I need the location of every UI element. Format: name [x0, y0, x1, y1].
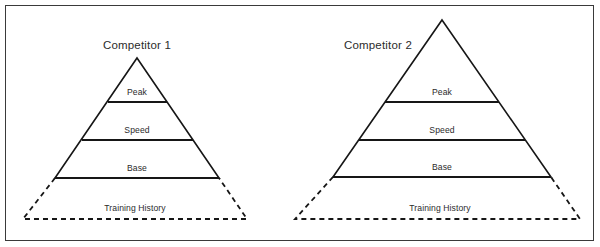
panel-2-title: Competitor 2 — [344, 39, 412, 51]
panel-competitor-1: Competitor 1 Peak Speed Base Training Hi… — [23, 39, 247, 219]
panel-1-training-history-label: Training History — [104, 203, 166, 213]
panel-2-training-history-label: Training History — [409, 203, 471, 213]
figure-container: Competitor 1 Peak Speed Base Training Hi… — [0, 0, 600, 247]
panel-1-layer-label-speed: Speed — [124, 125, 149, 135]
panel-2-layer-label-base: Base — [432, 162, 452, 172]
pyramid-comparison-diagram: Competitor 1 Peak Speed Base Training Hi… — [0, 0, 600, 247]
panel-2-layer-label-speed: Speed — [429, 125, 454, 135]
panel-competitor-2: Competitor 2 Peak Speed Base Training Hi… — [295, 20, 580, 219]
panel-1-title: Competitor 1 — [103, 39, 171, 51]
panel-2-layer-label-peak: Peak — [432, 87, 453, 97]
panel-1-layer-label-base: Base — [127, 163, 147, 173]
panel-1-pyramid-outline — [55, 58, 219, 178]
panel-1-layer-label-peak: Peak — [127, 87, 148, 97]
